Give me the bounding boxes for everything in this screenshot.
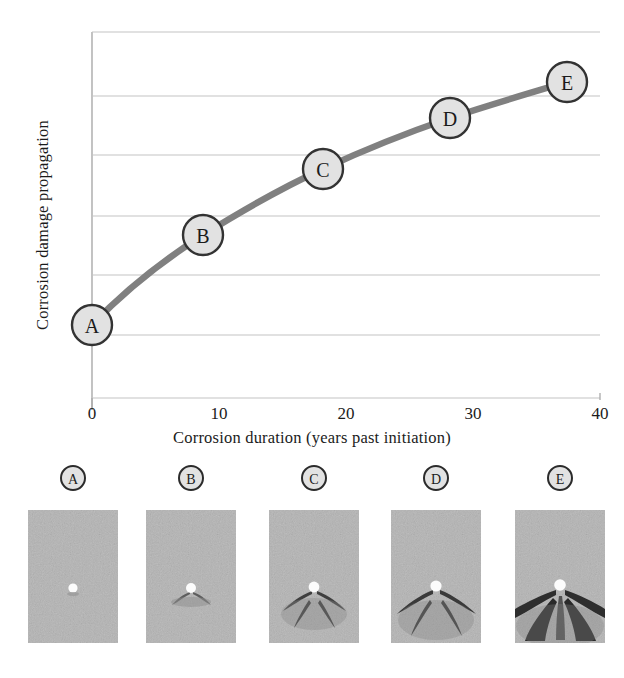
micrograph-badge-c: C bbox=[300, 464, 328, 492]
x-axis-title: Corrosion duration (years past initiatio… bbox=[0, 428, 624, 448]
chart-canvas: A B C D E bbox=[0, 0, 624, 460]
micrograph-badge-d: D bbox=[422, 464, 450, 492]
micrograph-image-a[interactable] bbox=[28, 510, 118, 643]
micrograph-badge-b: B bbox=[177, 464, 205, 492]
micrograph-badge-c-label: C bbox=[309, 472, 318, 487]
micrograph-cell-a: A bbox=[18, 460, 128, 660]
chart-panel: A B C D E 0 bbox=[0, 0, 624, 460]
x-tick-label-10: 10 bbox=[199, 404, 239, 424]
micrograph-badge-b-label: B bbox=[186, 472, 195, 487]
x-tick-label-30: 30 bbox=[453, 404, 493, 424]
data-point-a[interactable]: A bbox=[72, 305, 112, 345]
micrograph-badge-e: E bbox=[546, 464, 574, 492]
micrograph-cell-d: D bbox=[381, 460, 491, 660]
micrograph-strip: A B bbox=[0, 460, 624, 678]
data-point-b[interactable]: B bbox=[183, 215, 223, 255]
data-point-d-label: D bbox=[443, 108, 457, 130]
micrograph-cell-b: B bbox=[136, 460, 246, 660]
data-point-e[interactable]: E bbox=[547, 62, 587, 102]
y-axis-title: Corrosion damage propagation bbox=[33, 110, 53, 340]
x-tick-label-40: 40 bbox=[580, 404, 620, 424]
data-point-e-label: E bbox=[561, 72, 573, 94]
x-tick-label-20: 20 bbox=[326, 404, 366, 424]
micrograph-image-d[interactable] bbox=[391, 510, 481, 643]
micrograph-image-e[interactable] bbox=[515, 510, 605, 643]
micrograph-badge-a: A bbox=[59, 464, 87, 492]
data-point-markers: A B C D E bbox=[72, 62, 587, 345]
data-point-b-label: B bbox=[196, 225, 209, 247]
micrograph-badge-d-label: D bbox=[431, 472, 441, 487]
gridlines bbox=[92, 32, 600, 398]
x-tick-label-0: 0 bbox=[72, 404, 112, 424]
micrograph-cell-e: E bbox=[505, 460, 615, 660]
micrograph-image-b[interactable] bbox=[146, 510, 236, 643]
corrosion-damage-figure: A B C D E 0 bbox=[0, 0, 624, 678]
data-point-a-label: A bbox=[85, 315, 100, 337]
micrograph-image-c[interactable] bbox=[269, 510, 359, 643]
data-curve bbox=[92, 82, 567, 325]
micrograph-badge-e-label: E bbox=[556, 472, 565, 487]
micrograph-cell-c: C bbox=[259, 460, 369, 660]
data-point-c[interactable]: C bbox=[303, 149, 343, 189]
data-point-c-label: C bbox=[316, 159, 329, 181]
plot-axes bbox=[92, 32, 600, 410]
data-point-d[interactable]: D bbox=[430, 98, 470, 138]
micrograph-badge-a-label: A bbox=[68, 472, 79, 487]
